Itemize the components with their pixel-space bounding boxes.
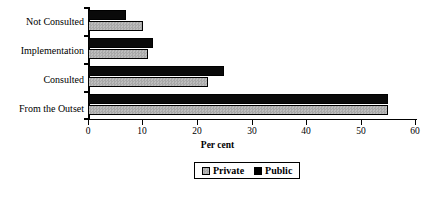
bar-public-consulted — [88, 66, 224, 76]
chart-legend: Private Public — [194, 162, 300, 179]
category-label-consulted: Consulted — [4, 74, 88, 86]
legend-entry-private: Private — [202, 165, 244, 176]
bar-private-consulted — [88, 77, 208, 87]
category-label-from-the-outset: From the Outset — [4, 103, 88, 115]
category-axis-labels: Not Consulted Implementation Consulted F… — [0, 0, 88, 119]
x-tick-label-40: 40 — [294, 125, 318, 137]
bar-public-not-consulted — [88, 10, 126, 20]
public-swatch-icon — [254, 167, 262, 175]
bar-private-not-consulted — [88, 21, 143, 31]
plot-area — [88, 8, 415, 119]
x-tick-label-50: 50 — [349, 125, 373, 137]
category-label-implementation: Implementation — [4, 45, 88, 57]
bar-chart: Not Consulted Implementation Consulted F… — [0, 0, 435, 199]
legend-label-public: Public — [265, 165, 292, 176]
x-tick-label-20: 20 — [185, 125, 209, 137]
bar-public-implementation — [88, 38, 153, 48]
private-swatch-icon — [202, 167, 210, 175]
x-axis-title: Per cent — [0, 140, 435, 150]
x-tick-label-30: 30 — [240, 125, 264, 137]
legend-entry-public: Public — [254, 165, 292, 176]
bar-public-from-the-outset — [88, 94, 388, 104]
x-tick-label-10: 10 — [130, 125, 154, 137]
category-label-not-consulted: Not Consulted — [4, 16, 88, 28]
x-tick-label-0: 0 — [76, 125, 100, 137]
legend-label-private: Private — [213, 165, 244, 176]
x-tick-label-60: 60 — [403, 125, 427, 137]
bar-private-implementation — [88, 49, 148, 59]
bar-private-from-the-outset — [88, 105, 388, 115]
